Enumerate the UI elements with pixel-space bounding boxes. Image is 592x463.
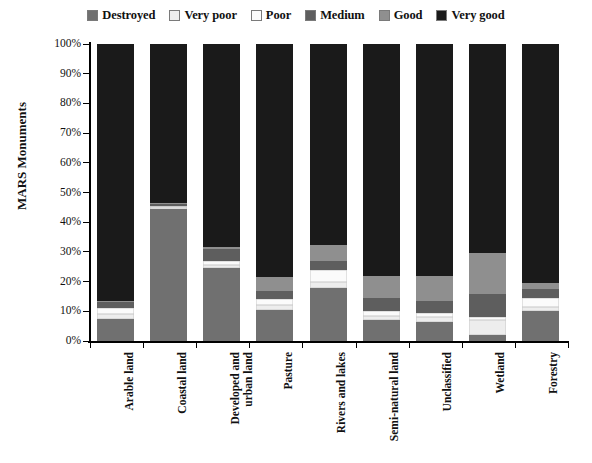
legend-swatch-icon [305,10,316,21]
y-axis-tick-label: 100% [37,38,81,50]
x-axis-tick [409,341,410,348]
y-axis-tick-label: 40% [37,216,81,228]
bar-segment [363,276,400,298]
bar-segment [469,44,506,253]
y-axis-tick-label: 10% [37,305,81,317]
bar-column [150,44,187,341]
y-axis-tick-label: 0% [37,335,81,347]
legend-item: Poor [251,9,291,22]
bar-column [363,44,400,341]
legend-swatch-icon [169,10,180,21]
x-axis-tick-label: Rivers and lakes [335,352,348,463]
x-axis-tick [462,341,463,348]
bar-segment [203,44,240,247]
y-axis-tick-label: 80% [37,97,81,109]
bar-segment [97,44,134,301]
bar-segment [363,298,400,311]
bar-segment [416,276,453,301]
bar-segment [310,245,347,261]
bar-segment [203,268,240,341]
bar-segment [203,249,240,261]
x-axis-tick-label: Semi-natural land [388,352,401,463]
y-axis-tick-label: 30% [37,246,81,258]
legend-swatch-icon [436,10,447,21]
x-axis-tick [356,341,357,348]
legend-item-label: Medium [320,9,365,22]
bar-segment [469,253,506,293]
x-axis-tick [515,341,516,348]
bar-segment [522,298,559,307]
legend-swatch-icon [251,10,262,21]
bar-segment [469,294,506,318]
bar-segment [97,319,134,341]
x-axis-tick-label: Forestry [547,352,560,463]
bar-segment [310,270,347,282]
bar-column [416,44,453,341]
x-axis-tick-label: Wetland [494,352,507,463]
chart-legend: DestroyedVery poorPoorMediumGoodVery goo… [0,4,592,26]
bar-column [256,44,293,341]
y-axis-title: MARS Monuments [14,66,30,246]
legend-item-label: Very poor [184,9,236,22]
bar-segment [150,209,187,341]
bar-segment [363,320,400,341]
x-axis-line [88,341,569,343]
y-axis-tick-labels: 0%10%20%30%40%50%60%70%80%90%100% [31,0,81,463]
x-axis-tick [143,341,144,348]
bar-segment [469,335,506,341]
x-axis-tick [568,341,569,348]
bar-column [469,44,506,341]
y-axis-tick-label: 90% [37,68,81,80]
legend-item: Destroyed [87,9,155,22]
y-axis-tick-label: 20% [37,276,81,288]
bar-segment [310,288,347,341]
bar-segment [416,301,453,313]
bar-column [203,44,240,341]
bar-segment [522,289,559,298]
bar-segment [256,310,293,341]
x-axis-tick-label: Coastal land [176,352,189,463]
stacked-bar-chart: DestroyedVery poorPoorMediumGoodVery goo… [0,0,592,463]
legend-item: Medium [305,9,365,22]
bar-segment [310,44,347,244]
legend-swatch-icon [379,10,390,21]
legend-item-label: Poor [266,9,291,22]
bar-column [97,44,134,341]
bar-segment [150,44,187,203]
bar-segment [522,44,559,283]
x-axis-tick [249,341,250,348]
bar-segment [256,44,293,277]
bar-segment [363,44,400,276]
bar-column [522,44,559,341]
x-axis-tick-label: Unclassified [441,352,454,463]
plot-area [89,44,568,341]
legend-item-label: Good [394,9,423,22]
bar-segment [310,261,347,270]
x-axis-tick [302,341,303,348]
x-axis-tick [90,341,91,348]
bar-segment [416,44,453,276]
bar-segment [256,291,293,300]
legend-item: Very good [436,9,504,22]
x-axis-tick-label: Developed and urban land [229,352,255,463]
bar-segment [256,277,293,290]
legend-item-label: Destroyed [102,9,155,22]
bar-segment [469,320,506,335]
legend-item-label: Very good [451,9,504,22]
y-axis-tick-label: 50% [37,187,81,199]
x-axis-tick [196,341,197,348]
y-axis-tick-label: 70% [37,127,81,139]
bar-segment [522,311,559,341]
bar-segment [416,322,453,341]
y-axis-tick-label: 60% [37,157,81,169]
legend-item: Good [379,9,423,22]
bar-column [310,44,347,341]
legend-item: Very poor [169,9,236,22]
x-axis-tick-label: Arable land [123,352,136,463]
legend-swatch-icon [87,10,98,21]
x-axis-tick-label: Pasture [282,352,295,463]
